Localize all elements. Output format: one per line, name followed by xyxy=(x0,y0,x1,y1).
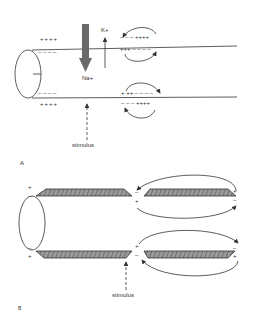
saltatory-current-arrow-icon xyxy=(137,206,236,218)
panel-a-label: A xyxy=(20,160,24,166)
charge-outer-right-top: – – – ++++ xyxy=(120,34,149,40)
charge-node-top-outer: – xyxy=(135,189,138,195)
myelin-sheath xyxy=(36,189,132,196)
saltatory-current-arrow-icon xyxy=(139,230,238,244)
panel-b xyxy=(19,175,238,290)
myelin-sheath xyxy=(36,251,132,258)
charge-outer-left-top: ++++ xyxy=(40,36,58,42)
charge-node-bottom-outer: – xyxy=(135,252,138,258)
current-loop-arrow-icon xyxy=(125,52,156,61)
charge-inner-left-top: – – – – xyxy=(38,49,56,55)
charge-right-top-outer: + xyxy=(233,188,237,194)
axon-bottom-membrane xyxy=(32,97,237,98)
saltatory-current-arrow-icon xyxy=(142,260,238,276)
current-loop-arrow-icon xyxy=(125,108,155,118)
charge-inner-left-bottom: – – – – xyxy=(38,90,56,96)
charge-left-bottom-outer: + xyxy=(28,253,32,259)
myelin-sheath xyxy=(144,251,235,258)
charge-right-bottom-inner: – xyxy=(233,245,236,251)
stimulus-label: stimulus xyxy=(112,292,134,298)
charge-right-bottom-outer: + xyxy=(233,253,237,259)
charge-outer-left-bottom: ++++ xyxy=(40,101,58,107)
charge-outer-right-bottom: – – – ++++ xyxy=(121,100,150,106)
charge-left-top-outer: + xyxy=(28,184,32,190)
charge-right-top-inner: – xyxy=(233,197,236,203)
charge-inner-right-bottom: + ++ – – – – xyxy=(121,90,153,96)
charge-node-top-inner: + xyxy=(135,198,139,204)
charge-node-bottom-inner: + xyxy=(135,243,139,249)
stimulus-label: stimulus xyxy=(72,142,94,148)
charge-inner-right-top: +++ – – – – xyxy=(120,46,151,52)
panel-b-label: B xyxy=(18,305,21,311)
charge-left-top-inner: – xyxy=(28,193,31,199)
k-ion-label: K+ xyxy=(101,27,109,33)
myelin-sheath xyxy=(144,189,236,196)
na-influx-arrow-icon xyxy=(79,24,92,72)
na-ion-label: Na+ xyxy=(82,75,93,81)
axon-cross-section xyxy=(19,196,45,250)
charge-left-bottom-inner: – xyxy=(28,245,31,251)
